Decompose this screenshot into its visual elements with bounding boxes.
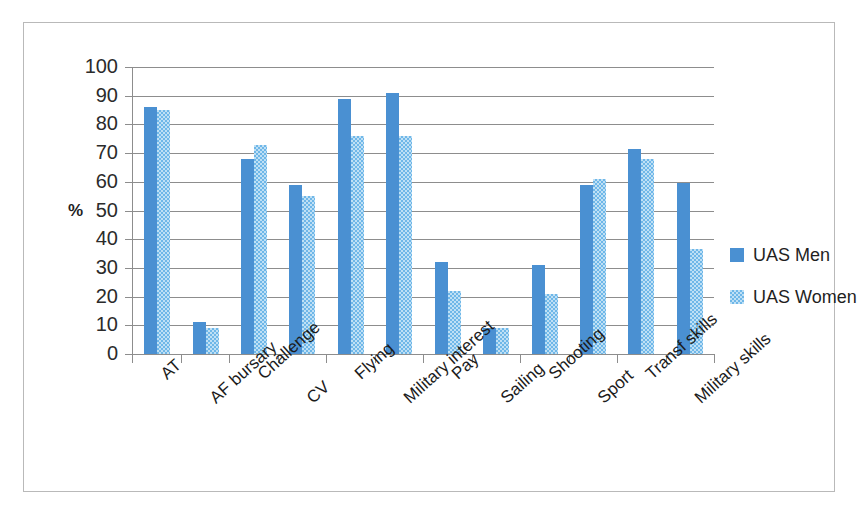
x-axis-tick (423, 354, 424, 363)
bar (641, 159, 654, 354)
y-axis-tick-label: 30 (66, 257, 118, 277)
legend-swatch (730, 248, 744, 262)
y-axis-tick-label: 90 (66, 85, 118, 105)
chart-frame: % 1009080706050403020100 ATAF bursaryCha… (23, 22, 835, 492)
bar-group (472, 67, 520, 354)
y-axis-tick (125, 124, 133, 125)
x-axis-tick (520, 354, 521, 363)
legend-label: UAS Men (753, 245, 830, 266)
bar (338, 99, 351, 354)
legend-label: UAS Women (753, 287, 857, 308)
y-axis-tick-label: 0 (66, 343, 118, 363)
y-axis-tick (125, 96, 133, 97)
bar (545, 294, 558, 354)
bar-group (278, 67, 326, 354)
x-axis-tick (714, 354, 715, 363)
x-axis-tick (617, 354, 618, 363)
y-axis-tick-label: 50 (66, 200, 118, 220)
x-axis-tick (132, 354, 133, 363)
legend-swatch (730, 290, 744, 304)
y-axis-tick-label: 40 (66, 228, 118, 248)
y-axis-tick (125, 153, 133, 154)
x-axis-category-label: Sport (594, 366, 638, 408)
bar-group (133, 67, 181, 354)
y-axis-tick (125, 211, 133, 212)
y-axis-tick (125, 182, 133, 183)
bar (496, 328, 509, 354)
bar-group (569, 67, 617, 354)
y-axis-tick (125, 239, 133, 240)
x-axis-tick (229, 354, 230, 363)
y-axis-tick-label: 20 (66, 286, 118, 306)
legend-item: UAS Men (730, 245, 860, 265)
x-axis-ticks (132, 354, 714, 363)
bar (435, 262, 448, 354)
x-axis-tick (181, 354, 182, 363)
bar-groups (133, 67, 714, 354)
y-axis-tick-label: 60 (66, 171, 118, 191)
y-axis-tick (125, 268, 133, 269)
bar (157, 110, 170, 354)
bar-group (181, 67, 229, 354)
x-axis-category-labels: ATAF bursaryChallengeCVFlyingMilitary in… (132, 363, 732, 493)
y-axis-tick (125, 325, 133, 326)
bar (206, 328, 219, 354)
x-axis-category-label: CV (303, 377, 334, 408)
x-axis-tick (326, 354, 327, 363)
y-axis-tick (125, 67, 133, 68)
bar (386, 93, 399, 354)
bar (254, 145, 267, 355)
y-axis-tick (125, 297, 133, 298)
bar (351, 136, 364, 354)
y-axis-tick-label: 70 (66, 142, 118, 162)
bar-group (327, 67, 375, 354)
bar-group (617, 67, 665, 354)
bar-group (424, 67, 472, 354)
x-axis-category-label: Sailing (497, 359, 548, 408)
bar (241, 159, 254, 354)
bar (628, 149, 641, 354)
bar-group (230, 67, 278, 354)
y-axis-tick-label: 100 (66, 56, 118, 76)
bar-group (520, 67, 568, 354)
bar (532, 265, 545, 354)
bar-group (375, 67, 423, 354)
y-axis-tick-label: 80 (66, 113, 118, 133)
bar (193, 322, 206, 354)
y-axis-tick-label: 10 (66, 314, 118, 334)
bar (144, 107, 157, 354)
bar (399, 136, 412, 354)
y-axis-tick-labels: 1009080706050403020100 (66, 23, 118, 525)
chart-legend: UAS MenUAS Women (730, 245, 860, 329)
legend-item: UAS Women (730, 287, 860, 307)
y-axis-tick (125, 354, 133, 355)
